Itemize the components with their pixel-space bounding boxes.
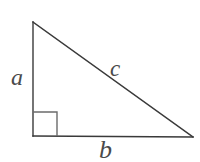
- right-angle-square-icon: [33, 112, 57, 136]
- horizontal-leg-line: [33, 136, 193, 137]
- right-triangle-figure: a c b: [0, 0, 200, 162]
- label-c: c: [110, 57, 120, 80]
- label-a: a: [11, 65, 23, 89]
- label-b: b: [99, 137, 112, 162]
